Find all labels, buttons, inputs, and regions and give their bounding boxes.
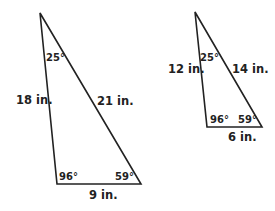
small-angle-bottom-right: 59° (238, 114, 257, 125)
large-angle-top: 25° (46, 52, 65, 63)
similar-triangles-diagram: 25° 96° 59° 18 in. 21 in. 9 in. 25° 96° … (0, 0, 275, 211)
small-side-bottom: 6 in. (228, 130, 257, 144)
large-side-right: 21 in. (97, 94, 134, 108)
large-angle-bottom-right: 59° (115, 171, 134, 182)
small-side-right: 14 in. (232, 62, 269, 76)
small-angle-bottom-left: 96° (210, 114, 229, 125)
large-side-left: 18 in. (16, 93, 53, 107)
small-side-left: 12 in. (168, 62, 205, 76)
large-side-bottom: 9 in. (89, 188, 118, 202)
small-triangle: 25° 96° 59° 12 in. 14 in. 6 in. (168, 12, 269, 144)
large-triangle: 25° 96° 59° 18 in. 21 in. 9 in. (16, 13, 141, 202)
large-angle-bottom-left: 96° (59, 171, 78, 182)
